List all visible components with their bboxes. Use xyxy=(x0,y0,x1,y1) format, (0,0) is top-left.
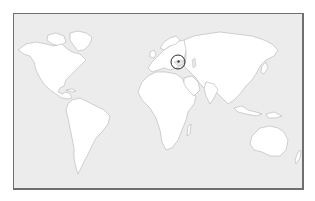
north-america xyxy=(18,42,86,99)
south-america xyxy=(66,98,110,174)
new-zealand xyxy=(295,150,301,164)
greenland xyxy=(70,31,92,51)
world-map xyxy=(0,0,315,201)
australia xyxy=(250,126,288,156)
southeast-asia-islands xyxy=(234,106,262,116)
new-guinea xyxy=(266,112,282,118)
madagascar xyxy=(187,124,191,136)
british-isles xyxy=(150,50,156,58)
arctic-islands xyxy=(47,33,66,46)
location-marker-dot xyxy=(177,60,179,62)
caribbean xyxy=(66,89,76,92)
